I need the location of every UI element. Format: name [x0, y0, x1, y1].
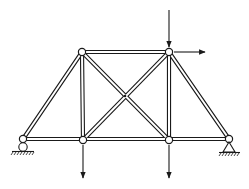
load-arrows: [83, 10, 205, 178]
truss-members: [23, 52, 229, 140]
joint-c-icon: [165, 136, 172, 143]
roller-support-icon: [11, 143, 34, 155]
joint-e-icon: [78, 48, 85, 55]
cross-joint-icon: [124, 95, 127, 98]
joint-b-icon: [79, 136, 86, 143]
joint-f-icon: [165, 48, 172, 55]
truss-diagram: [0, 0, 249, 189]
joint-a-icon: [19, 135, 26, 142]
pin-support-icon: [219, 142, 240, 156]
